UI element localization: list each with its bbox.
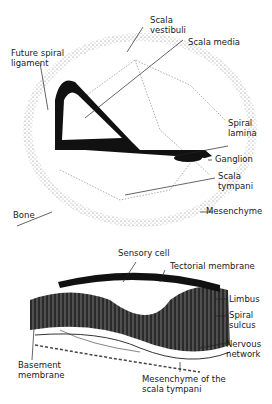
label-spiral-sulcus: Spiral sulcus [229, 311, 256, 330]
label-ganglion: Ganglion [215, 155, 253, 165]
label-spiral-lamina: Spiral lamina [228, 119, 257, 138]
label-scala-vestibuli: Scala vestibuli [150, 16, 186, 35]
label-tectorial-membrane: Tectorial membrane [170, 262, 255, 272]
label-limbus: Limbus [229, 295, 260, 305]
label-bone: Bone [13, 211, 35, 221]
lower-organ-section [30, 273, 230, 372]
label-mesenchyme-scala-tympani: Mesenchyme of the scala tympani [142, 375, 226, 394]
label-nervous-network: Nervous network [226, 340, 261, 359]
label-future-spiral-ligament: Future spiral ligament [11, 49, 64, 68]
label-scala-media: Scala media [188, 38, 240, 48]
label-mesenchyme: Mesenchyme [206, 207, 262, 217]
label-basement-membrane: Basement membrane [18, 361, 65, 380]
label-sensory-cell: Sensory cell [118, 249, 170, 259]
label-scala-tympani: Scala tympani [218, 172, 253, 191]
